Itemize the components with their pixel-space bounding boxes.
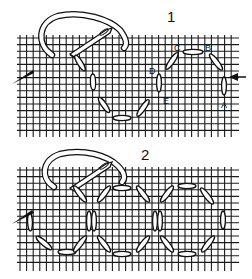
panel-1-drawing [0, 0, 252, 140]
stitches-ring-1 [73, 49, 226, 120]
needle-with-thread-icon [41, 14, 126, 70]
label-e: E [163, 97, 169, 106]
panel-2-drawing [0, 140, 252, 279]
label-a: A [221, 101, 227, 110]
panel-2: 2 [0, 140, 252, 279]
label-b: B [205, 44, 211, 53]
needle-tip-icon [12, 70, 34, 84]
label-c: C [174, 44, 181, 53]
panel-1: 1 A B C D E [0, 0, 252, 140]
panel-number-1: 1 [167, 8, 175, 25]
panel-number-2: 2 [141, 146, 149, 163]
stitches-chain-2 [27, 183, 225, 256]
label-d: D [149, 67, 156, 76]
